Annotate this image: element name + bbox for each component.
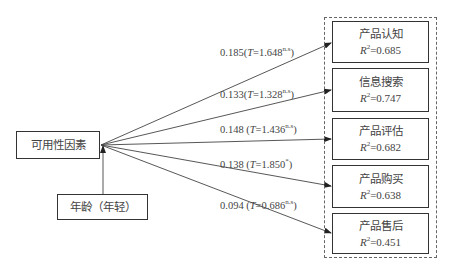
r-squared: R2=0.638	[360, 186, 401, 202]
path-label-3: 0.148 (T=1.436n.s)	[220, 122, 297, 135]
target-node-product-evaluation: 产品评估 R2=0.682	[332, 118, 429, 160]
r-squared: R2=0.747	[360, 89, 401, 105]
path-label-5: 0.094 (T=0.686n.s)	[220, 198, 297, 211]
path-label-4: 0.138 (T=1.850*)	[220, 157, 292, 170]
path-label-2: 0.133(T=1.328n.s)	[220, 87, 294, 100]
moderator-node-age: 年龄（年轻）	[57, 194, 148, 220]
target-node-product-cognition: 产品认知 R2=0.685	[332, 21, 429, 63]
r-squared: R2=0.451	[360, 233, 401, 249]
path-label-1: 0.185(T=1.648n.s)	[220, 45, 294, 58]
target-node-info-search: 信息搜索 R2=0.747	[332, 68, 429, 112]
moderator-node-label: 年龄（年轻）	[70, 200, 136, 214]
r-squared: R2=0.685	[360, 41, 401, 57]
target-node-after-sales: 产品售后 R2=0.451	[332, 213, 429, 254]
source-node-usability: 可用性因素	[16, 131, 100, 159]
path-arrow-4	[101, 145, 331, 186]
r-squared: R2=0.682	[360, 138, 401, 154]
path-arrow-2	[101, 90, 331, 145]
target-node-product-purchase: 产品购买 R2=0.638	[332, 165, 429, 208]
path-arrow-3	[101, 139, 331, 145]
source-node-label: 可用性因素	[31, 138, 86, 152]
